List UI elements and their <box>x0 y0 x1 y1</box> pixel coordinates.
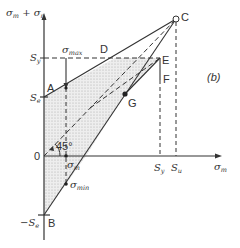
point-sigma-max <box>64 86 67 89</box>
point-F-label: F <box>163 73 170 85</box>
point-C <box>173 16 179 22</box>
label-su-x: Su <box>171 162 182 175</box>
origin-label: 0 <box>34 150 40 162</box>
x-axis-arrow-icon <box>215 154 222 159</box>
angle-label: 45° <box>56 140 73 152</box>
point-A-label: A <box>47 82 55 94</box>
point-D-label: D <box>100 43 108 55</box>
point-sigma-min <box>64 182 68 186</box>
x-axis-label: σm <box>214 161 227 174</box>
sigma-max-label: σmax <box>62 44 83 57</box>
y-axis-label: σm + σr <box>6 7 45 20</box>
label-se-y: Se <box>30 92 41 105</box>
point-G-label: G <box>128 97 137 109</box>
point-E-label: E <box>162 54 169 66</box>
point-B-label: B <box>48 217 55 229</box>
point-G <box>122 91 127 96</box>
point-sigma-m <box>64 154 68 158</box>
modified-goodman-diagram: σm + σr (b) Sy Se −Se 0 45° Sy Su σm A B… <box>0 0 240 248</box>
panel-label: (b) <box>207 71 221 83</box>
label-neg-se: −Se <box>20 217 39 230</box>
label-sy-x: Sy <box>154 162 165 175</box>
point-C-label: C <box>181 11 189 23</box>
label-sy-y: Sy <box>30 52 41 65</box>
sigma-min-label: σmin <box>70 179 89 192</box>
